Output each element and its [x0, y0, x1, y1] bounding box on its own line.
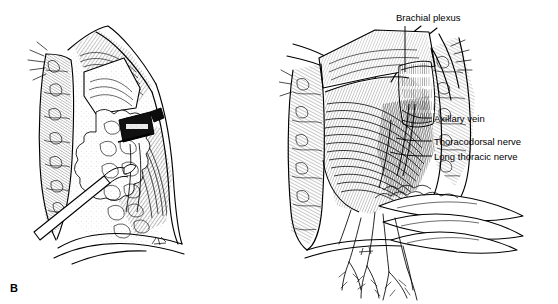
label-brachial-plexus: Brachial plexus — [396, 13, 460, 23]
panel-letter-b: B — [10, 283, 18, 294]
label-axillary-vein: Axillary vein — [434, 114, 485, 124]
figure-axillary-dissection: B — [0, 0, 558, 304]
label-long-thoracic-nerve: Long thoracic nerve — [434, 152, 517, 162]
panel-b: B — [0, 0, 279, 304]
label-thoracodorsal-nerve: Thoracodorsal nerve — [434, 137, 521, 147]
panel-b-illustration — [0, 0, 279, 304]
